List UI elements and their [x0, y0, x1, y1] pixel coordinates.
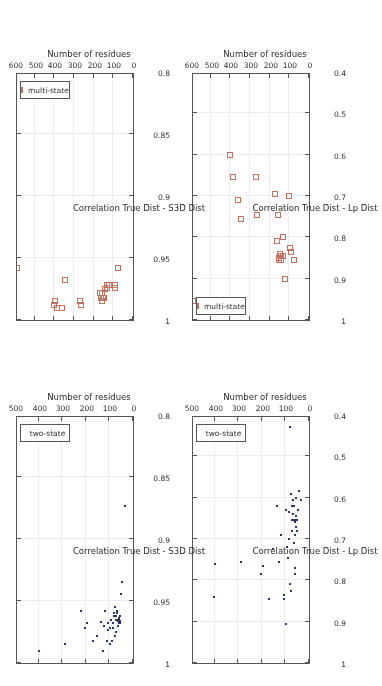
x-axis-tick [284, 417, 285, 421]
gridline-vertical [93, 74, 94, 320]
gridline-horizontal [17, 600, 133, 601]
y-axis-tick [305, 236, 309, 237]
gridline-vertical [214, 417, 215, 663]
panel-s3d-multi-state: Number of residues Correlation True Dist… [1, 0, 177, 343]
x-axis-tick [108, 417, 109, 421]
data-point [114, 635, 116, 637]
x-axis-tick [237, 417, 238, 421]
y-axis-title: Correlation True Dist - Lp Dist [215, 203, 382, 213]
gridline-horizontal [17, 195, 133, 196]
gridline-vertical [34, 74, 35, 320]
y-axis-tick [305, 621, 309, 622]
data-point [289, 426, 291, 428]
x-axis-title: Number of residues [1, 49, 177, 59]
x-axis-tick [73, 74, 74, 78]
data-point [100, 621, 102, 623]
plot-area [192, 416, 310, 664]
y-axis-tick [17, 257, 21, 258]
legend[interactable]: multi-state [20, 81, 70, 99]
gridline-vertical [85, 417, 86, 663]
data-point [294, 573, 296, 575]
gridline-vertical [108, 417, 109, 663]
data-point [109, 643, 111, 645]
data-point [291, 530, 293, 532]
data-point [213, 596, 215, 598]
data-point [111, 640, 113, 642]
gridline-vertical [61, 417, 62, 663]
data-point [110, 619, 112, 621]
data-point [294, 534, 296, 536]
data-point [292, 513, 294, 515]
x-tick-label: 600 [178, 61, 206, 70]
data-point [124, 505, 126, 507]
data-point [288, 511, 290, 513]
data-point [92, 640, 94, 642]
data-point [117, 625, 119, 627]
data-point [295, 515, 297, 517]
data-point [97, 290, 103, 296]
data-point [287, 245, 293, 251]
gridline-horizontal [193, 621, 309, 622]
y-axis-tick [193, 579, 197, 580]
y-axis-title: Correlation True Dist - S3D Dist [39, 203, 239, 213]
x-axis-tick [53, 316, 54, 320]
data-point [289, 583, 291, 585]
data-point [283, 594, 285, 596]
data-point [117, 619, 119, 621]
data-point [104, 610, 106, 612]
legend[interactable]: two-state [20, 424, 70, 442]
x-axis-tick [229, 316, 230, 320]
gridline-horizontal [193, 455, 309, 456]
data-point [51, 302, 57, 308]
y-tick-label: 0.7 [314, 536, 346, 545]
legend[interactable]: two-state [196, 424, 246, 442]
data-point [262, 565, 264, 567]
x-axis-tick [210, 316, 211, 320]
data-point [293, 505, 295, 507]
data-point [106, 640, 108, 642]
y-tick-label: 1 [314, 660, 346, 669]
x-axis-tick [261, 659, 262, 663]
data-point [297, 509, 299, 511]
data-point [240, 561, 242, 563]
y-tick-label: 0.8 [314, 234, 346, 243]
x-axis-tick [269, 316, 270, 320]
y-tick-label: 1 [138, 660, 170, 669]
y-axis-tick [193, 278, 197, 279]
x-axis-tick [214, 417, 215, 421]
x-axis-tick [38, 659, 39, 663]
y-tick-label: 0.6 [314, 152, 346, 161]
data-point [293, 542, 295, 544]
data-point [285, 623, 287, 625]
y-axis-tick [193, 319, 197, 320]
x-axis-tick [108, 659, 109, 663]
y-tick-label: 0.9 [314, 276, 346, 285]
y-tick-label: 0.9 [314, 619, 346, 628]
y-tick-label: 0.9 [138, 536, 170, 545]
data-point [115, 619, 117, 621]
data-point [102, 650, 104, 652]
y-tick-label: 1 [138, 317, 170, 326]
data-point [276, 505, 278, 507]
x-axis-tick [214, 659, 215, 663]
y-axis-tick [305, 319, 309, 320]
gridline-vertical [284, 417, 285, 663]
x-tick-label: 200 [73, 404, 101, 413]
data-point [292, 499, 294, 501]
y-axis-tick [129, 538, 133, 539]
data-point [214, 563, 216, 565]
panel-lp-multi-state: Number of residues Correlation True Dist… [177, 0, 353, 343]
y-axis-tick [305, 538, 309, 539]
gridline-horizontal [17, 257, 133, 258]
data-point [62, 277, 68, 283]
data-point [96, 635, 98, 637]
panel-s3d-two-state: Number of residues Correlation True Dist… [1, 343, 177, 686]
legend[interactable]: multi-state [196, 297, 246, 315]
gridline-horizontal [193, 538, 309, 539]
data-point [113, 612, 115, 614]
x-axis-tick [249, 316, 250, 320]
x-axis-tick [93, 316, 94, 320]
legend-label: two-state [206, 429, 242, 438]
